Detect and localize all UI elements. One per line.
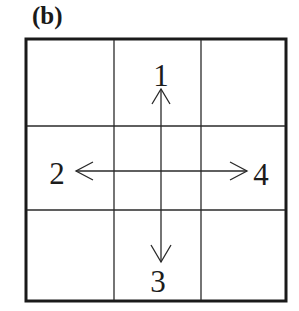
grid-diagram: 1 2 3 4 [0,0,299,311]
arrow-label-2: 2 [49,156,65,191]
arrow-label-1: 1 [153,58,169,93]
arrow-label-3: 3 [150,264,166,299]
arrow-label-4: 4 [253,157,269,192]
